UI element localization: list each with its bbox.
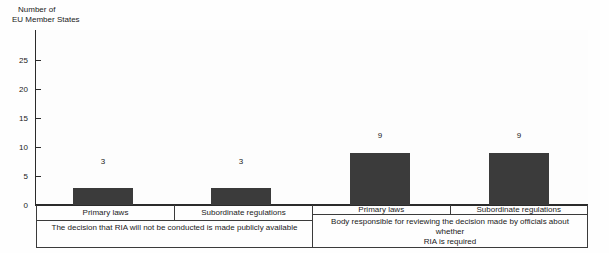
bar-value-group2-subordinate-regulations: 9 [517, 131, 521, 140]
bar-value-group2-primary-laws: 9 [378, 131, 382, 140]
x-axis-group-1-subheaders: Primary laws Subordinate regulations [37, 205, 312, 221]
x-axis-label-group1-subordinate-regulations: Subordinate regulations [174, 205, 312, 220]
y-tick-label-0: 0 [24, 201, 28, 210]
y-tick-label-25: 25 [19, 56, 28, 65]
x-axis-group-2-caption: Body responsible for reviewing the decis… [313, 215, 587, 247]
bar-value-group1-subordinate-regulations: 3 [239, 157, 243, 166]
bar-group2-primary-laws [350, 153, 410, 205]
x-axis-group-2-subheaders: Primary laws Subordinate regulations [313, 205, 587, 215]
bar-group1-primary-laws [73, 188, 133, 205]
y-tick-label-15: 15 [19, 114, 28, 123]
y-tick-mark-10 [36, 147, 41, 148]
y-tick-label-10: 10 [19, 143, 28, 152]
x-axis-label-group2-primary-laws: Primary laws [313, 205, 450, 214]
x-axis-group-1: Primary laws Subordinate regulations The… [37, 205, 312, 247]
y-tick-mark-5 [36, 176, 41, 177]
y-tick-mark-20 [36, 89, 41, 90]
x-axis-label-group2-subordinate-regulations: Subordinate regulations [450, 205, 588, 214]
x-axis-group-1-caption-text: The decision that RIA will not be conduc… [48, 223, 302, 233]
y-tick-label-20: 20 [19, 85, 28, 94]
bar-value-group1-primary-laws: 3 [101, 157, 105, 166]
x-axis-group-2-caption-line2: RIA is required [313, 237, 587, 247]
y-tick-mark-25 [36, 60, 41, 61]
x-axis-group-2-caption-line1: Body responsible for reviewing the decis… [313, 217, 587, 237]
bar-group1-subordinate-regulations [211, 188, 271, 205]
y-tick-mark-15 [36, 118, 41, 119]
y-tick-label-5: 5 [24, 172, 28, 181]
y-axis-ticks: 0 5 10 15 20 25 [0, 0, 36, 253]
x-axis-label-table: Primary laws Subordinate regulations The… [36, 205, 588, 248]
x-axis-group-1-caption: The decision that RIA will not be conduc… [37, 221, 312, 247]
x-axis-label-group1-primary-laws: Primary laws [37, 205, 174, 220]
bar-chart-figure: Number of EU Member States 0 5 10 15 20 … [0, 0, 609, 253]
bar-group2-subordinate-regulations [489, 153, 549, 205]
x-axis-group-2: Primary laws Subordinate regulations Bod… [312, 205, 587, 247]
